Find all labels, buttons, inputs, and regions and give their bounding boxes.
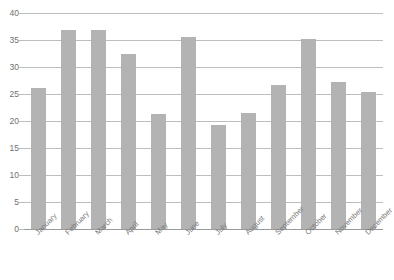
- bar: [331, 82, 346, 229]
- bar-series: [23, 13, 383, 229]
- y-axis-tick-label: 20: [0, 117, 19, 126]
- y-axis-tick-label: 15: [0, 144, 19, 153]
- bar: [91, 30, 106, 229]
- y-axis-tick-label: 25: [0, 90, 19, 99]
- bar: [181, 37, 196, 229]
- bar: [121, 54, 136, 229]
- bar: [211, 125, 226, 229]
- y-axis-tick-label: 10: [0, 171, 19, 180]
- y-axis-tick-mark: [19, 229, 24, 230]
- bar: [61, 30, 76, 229]
- y-axis-tick-label: 35: [0, 36, 19, 45]
- bar: [31, 88, 46, 229]
- y-axis-tick-label: 30: [0, 63, 19, 72]
- x-axis-labels: JanuaryFebruaryMarchAprilMayJuneJulyAugu…: [0, 231, 389, 280]
- bar: [151, 114, 166, 229]
- bar: [241, 113, 256, 229]
- y-axis-tick-label: 40: [0, 9, 19, 18]
- bar: [361, 92, 376, 229]
- bar: [271, 85, 286, 229]
- bar: [301, 39, 316, 229]
- clipped-title: [40, 0, 340, 3]
- y-axis-tick-label: 5: [0, 198, 19, 207]
